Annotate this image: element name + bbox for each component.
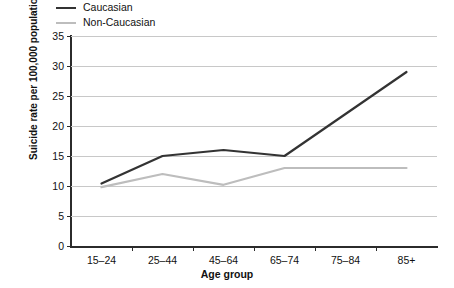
legend-swatch-non-caucasian	[56, 22, 76, 24]
y-tick-label: 5	[58, 210, 64, 222]
x-tick-mark	[254, 246, 255, 251]
y-tick-label: 15	[52, 150, 64, 162]
y-tick-mark	[67, 246, 71, 247]
x-tick-mark	[376, 246, 377, 251]
y-tick-label: 30	[52, 60, 64, 72]
x-tick-label: 75–84	[331, 254, 360, 266]
x-tick-mark	[132, 246, 133, 251]
x-tick-label: 85+	[398, 254, 416, 266]
y-tick-label: 20	[52, 120, 64, 132]
legend-item-non-caucasian: Non-Caucasian	[56, 16, 155, 29]
y-tick-label: 0	[58, 240, 64, 252]
legend-label-caucasian: Caucasian	[83, 2, 133, 13]
x-tick-label: 25–44	[148, 254, 177, 266]
x-tick-mark	[315, 246, 316, 251]
x-tick-mark	[193, 246, 194, 251]
legend-label-non-caucasian: Non-Caucasian	[83, 17, 155, 28]
suicide-rate-line-chart: Caucasian Non-Caucasian Suicide rate per…	[0, 0, 454, 288]
x-tick-label: 45–64	[209, 254, 238, 266]
chart-legend: Caucasian Non-Caucasian	[56, 1, 155, 29]
y-tick-label: 10	[52, 180, 64, 192]
y-tick-label: 35	[52, 30, 64, 42]
y-tick-label: 25	[52, 90, 64, 102]
plot-area: 05101520253035 15–2425–4445–6465–7475–84…	[71, 36, 437, 246]
series-line-non-caucasian	[102, 168, 407, 187]
y-axis-title: Suicide rate per 100,000 population	[28, 0, 40, 161]
x-tick-label: 15–24	[87, 254, 116, 266]
series-line-caucasian	[102, 72, 407, 184]
legend-item-caucasian: Caucasian	[56, 1, 155, 14]
series-layer	[71, 36, 437, 246]
legend-swatch-caucasian	[56, 7, 76, 9]
x-tick-label: 65–74	[270, 254, 299, 266]
x-axis-title: Age group	[0, 268, 454, 280]
